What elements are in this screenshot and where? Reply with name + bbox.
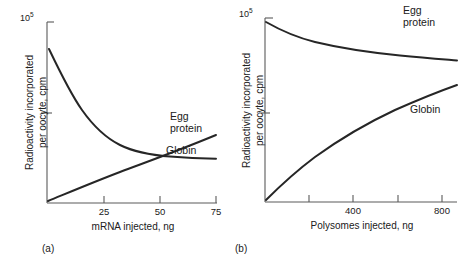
panel-a-y-exp-base: 10 [20,13,30,23]
panel-b-label-egg-protein: Egg protein [403,4,435,28]
chart-panel-b: 105 400 800 Polysomes injected, ng Radio… [235,0,475,262]
panel-b-label-egg-line2: protein [403,16,435,28]
panel-a-y-exponent-label: 105 [20,13,34,23]
panel-b-y-exp-power: 5 [249,7,253,14]
panel-b-y-exponent-label: 105 [239,9,253,19]
panel-a-label-egg-line2: protein [170,122,202,134]
panel-b-xticklabel-400: 400 [339,205,367,216]
panel-b-label-egg-line1: Egg [403,4,435,16]
panel-b-yaxis-title-line1: Radioactivity incorporated [241,23,254,198]
panel-b-y-exp-base: 10 [239,9,249,19]
panel-b-yaxis-title-line2: per oocyte, cpm [254,23,267,198]
panel-b-xticklabel-800: 800 [428,205,456,216]
panel-b-xaxis-title: Polysomes injected, ng [277,220,447,231]
panel-b-caption: (b) [235,243,247,254]
panel-a-xaxis-title: mRNA injected, ng [63,221,203,232]
panel-a-caption: (a) [42,243,54,254]
panel-a-label-egg-line1: Egg [170,110,202,122]
figure-container: 105 25 50 75 mRNA injected, ng Radioacti… [0,0,475,262]
chart-panel-a: 105 25 50 75 mRNA injected, ng Radioacti… [0,0,235,262]
panel-b-label-globin: Globin [410,103,440,115]
panel-a-yaxis-title-line2: per oocyte, cpm [37,25,50,200]
panel-a-label-egg-protein: Egg protein [170,110,202,134]
panel-a-label-globin: Globin [166,144,196,156]
panel-a-xticklabel-25: 25 [90,206,118,217]
panel-a-xticklabel-75: 75 [202,206,230,217]
panel-a-y-exp-power: 5 [30,11,34,18]
panel-a-curve-egg-protein [49,49,216,159]
panel-a-yaxis-title-line1: Radioactivity incorporated [24,25,37,200]
panel-a-xticklabel-50: 50 [146,206,174,217]
